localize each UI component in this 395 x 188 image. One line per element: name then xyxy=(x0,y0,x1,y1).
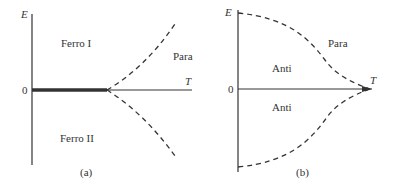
panel-b-axes xyxy=(238,10,372,172)
panel-a-caption: (a) xyxy=(80,167,92,178)
panel-b-y-axis-label: E xyxy=(225,7,232,18)
panel-b-x-axis-label: T xyxy=(370,75,376,86)
panel-b-origin-label: 0 xyxy=(228,84,234,95)
panel-b-region-anti-lower: Anti xyxy=(272,102,292,113)
panel-a-region-ferro-ii: Ferro II xyxy=(60,133,94,144)
panel-a-origin-label: 0 xyxy=(22,85,28,96)
panel-b-phase-boundaries xyxy=(238,13,370,167)
panel-b-region-anti-upper: Anti xyxy=(272,63,292,74)
panel-a-region-ferro-i: Ferro I xyxy=(61,38,91,49)
phase-diagrams xyxy=(0,0,395,188)
panel-a-region-para: Para xyxy=(173,51,193,62)
panel-b-critical-point-icon xyxy=(362,86,372,92)
panel-a-axes xyxy=(32,14,192,165)
panel-b-caption: (b) xyxy=(296,167,309,178)
panel-a-y-axis-label: E xyxy=(21,9,28,20)
panel-a-x-axis-label: T xyxy=(185,76,191,87)
panel-b-region-para: Para xyxy=(328,38,348,49)
